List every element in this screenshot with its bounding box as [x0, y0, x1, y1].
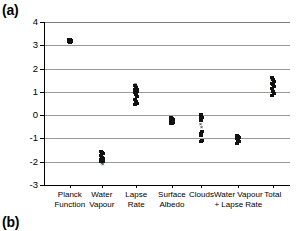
data-point: [270, 94, 274, 97]
x-tick-label-line2: + Lapse Rate: [207, 200, 269, 210]
y-tick-label: 1: [12, 87, 38, 97]
x-tick: [136, 185, 137, 188]
x-axis-tick-labels: PlanckFunctionWaterVapourLapseRateSurfac…: [0, 190, 297, 220]
gridline: [45, 92, 290, 93]
y-tick-label: 4: [12, 17, 38, 27]
y-tick: [40, 138, 44, 139]
y-tick: [40, 162, 44, 163]
x-tick-label-line2: Albedo: [141, 200, 203, 210]
y-tick: [40, 92, 44, 93]
data-point: ×: [199, 125, 204, 130]
data-point: [170, 122, 174, 125]
x-tick: [238, 185, 239, 188]
y-tick: [40, 69, 44, 70]
x-tick-label-line2: Total: [242, 190, 297, 200]
y-tick: [40, 45, 44, 46]
data-point: [199, 140, 203, 143]
y-tick: [40, 115, 44, 116]
x-tick: [102, 185, 103, 188]
data-point: [235, 142, 239, 145]
y-tick-label: 0: [12, 110, 38, 120]
y-tick-label: -3: [12, 180, 38, 190]
y-tick: [40, 22, 44, 23]
plot-top-border: [44, 22, 290, 23]
data-point: [199, 134, 203, 137]
data-point: [133, 103, 137, 106]
x-tick: [201, 185, 202, 188]
data-point: [68, 41, 72, 44]
plot-area: ×××××××××××: [44, 22, 290, 186]
y-tick-label: -2: [12, 157, 38, 167]
y-tick: [40, 185, 44, 186]
x-tick: [172, 185, 173, 188]
data-point: ×: [270, 88, 275, 93]
x-tick-label: Total: [242, 190, 297, 200]
data-point: ×: [133, 89, 138, 94]
gridline: [45, 45, 290, 46]
gridline: [45, 162, 290, 163]
data-point: ×: [269, 78, 274, 83]
gridline: [45, 69, 290, 70]
y-tick-label: -1: [12, 133, 38, 143]
y-tick-label: 2: [12, 64, 38, 74]
data-point: ×: [100, 162, 105, 167]
x-axis-line: [44, 185, 290, 186]
gridline: [45, 138, 290, 139]
gridline: [45, 115, 290, 116]
x-tick: [273, 185, 274, 188]
y-tick-label: 3: [12, 40, 38, 50]
x-tick: [70, 185, 71, 188]
panel-a-label: (a): [2, 2, 19, 18]
figure-panel-a: (a) (b) Radiative Feedback Parameter (W/…: [0, 0, 297, 231]
